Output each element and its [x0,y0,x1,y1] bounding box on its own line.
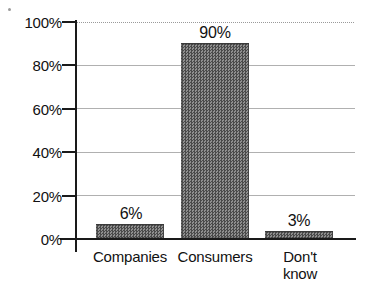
y-tick-60 [62,108,76,110]
y-axis-label-20: 20% [4,189,62,204]
y-axis-label-100: 100% [4,15,62,30]
y-axis-labels: 100% 80% 60% 40% 20% 0% [0,0,62,292]
category-label-consumers: Consumers [165,248,265,265]
y-axis-label-40: 40% [4,145,62,160]
bar-dont-know [265,231,333,238]
y-axis-label-80: 80% [4,58,62,73]
bar-companies [96,224,164,238]
y-tick-0 [62,238,76,240]
y-tick-40 [62,151,76,153]
x-axis-line [60,238,356,240]
gridline-100 [75,22,355,23]
y-axis-label-0: 0% [4,232,62,247]
y-axis-label-60: 60% [4,102,62,117]
y-tick-100 [62,21,76,23]
category-label-dont-know-line2: know [255,265,345,282]
category-label-dont-know: Don't know [255,248,345,282]
bar-value-companies: 6% [86,206,176,222]
y-tick-20 [62,195,76,197]
bar-chart: 100% 80% 60% 40% 20% 0% 6% 90% 3% Compan… [0,0,365,292]
y-tick-80 [62,64,76,66]
category-label-dont-know-line1: Don't [255,248,345,265]
bar-value-dont-know: 3% [254,213,344,229]
bar-value-consumers: 90% [170,25,260,41]
bar-consumers [181,43,249,238]
y-axis-line [75,20,77,252]
